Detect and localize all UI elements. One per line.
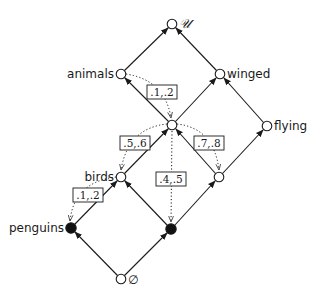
edge-label-text: .5,.6: [123, 137, 147, 149]
node-penguins: [66, 223, 76, 233]
edge-right-center: [176, 129, 216, 174]
edge-label-text: .1,.2: [150, 86, 173, 98]
node-label-top: 𝒰: [179, 16, 195, 31]
edge-label-animals-center: .1,.2: [147, 85, 177, 99]
node-label-birds: birds: [84, 170, 114, 184]
edge-center-winged: [176, 78, 217, 122]
edge-penguins-birds: [75, 181, 118, 225]
edge-black-birds: [125, 181, 168, 226]
edge-bottom-penguins: [75, 232, 118, 276]
node-bottom: [116, 274, 126, 284]
edge-label-text: .4,.5: [159, 173, 182, 185]
node-label-winged: winged: [227, 67, 270, 81]
edge-black-right: [175, 181, 216, 226]
node-label-flying: flying: [274, 119, 307, 133]
node-black: [166, 224, 176, 234]
node-label-bottom: ∅: [128, 273, 138, 287]
edge-label-center-black: .4,.5: [156, 172, 186, 186]
edge-label-birds-penguins: .1,.2: [73, 188, 103, 202]
edge-bottom-black: [125, 233, 168, 276]
edge-animals-top: [125, 28, 169, 71]
edge-label-center-right: .7,.8: [194, 136, 224, 150]
node-flying: [262, 121, 272, 131]
edge-label-text: .7,.8: [197, 137, 220, 149]
edge-label-text: .1,.2: [76, 189, 99, 201]
node-top: [167, 19, 177, 29]
node-right: [214, 172, 224, 182]
node-animals: [116, 69, 126, 79]
lattice-diagram: .1,.2 .5,.6 .7,.8 .4,.5 .1,.2 𝒰 animals …: [0, 0, 321, 301]
edge-label-center-birds: .5,.6: [120, 136, 150, 150]
solid-edges: [75, 28, 264, 276]
nodes: [66, 19, 272, 284]
edge-winged-top: [176, 28, 217, 71]
edge-flying-winged: [224, 78, 264, 123]
node-birds: [116, 172, 126, 182]
node-winged: [215, 69, 225, 79]
edge-birds-center: [125, 129, 169, 174]
edge-right-flying: [223, 130, 264, 174]
edge-center-animals: [125, 78, 169, 122]
node-center: [167, 120, 177, 130]
node-label-penguins: penguins: [9, 221, 64, 235]
node-label-animals: animals: [67, 67, 114, 81]
